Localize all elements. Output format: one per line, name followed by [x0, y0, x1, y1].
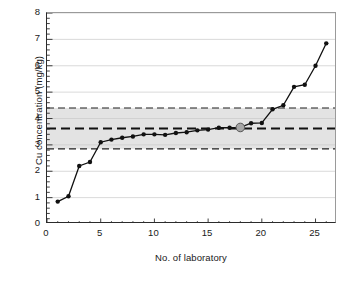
- data-point: [217, 126, 221, 130]
- data-point: [174, 131, 178, 135]
- data-point: [56, 199, 60, 203]
- data-point: [184, 130, 188, 134]
- data-point: [152, 132, 156, 136]
- data-point: [141, 132, 145, 136]
- highlighted-point: [236, 123, 245, 132]
- highlighted-data-point: [236, 123, 245, 132]
- data-point: [260, 121, 264, 125]
- data-point: [303, 83, 307, 87]
- data-point: [292, 85, 296, 89]
- data-point: [206, 127, 210, 131]
- data-point: [324, 41, 328, 45]
- data-point: [77, 164, 81, 168]
- gridlines: [47, 13, 336, 198]
- data-point: [120, 136, 124, 140]
- data-point: [249, 121, 253, 125]
- data-point: [270, 107, 274, 111]
- plot-area: [46, 12, 336, 223]
- data-point: [66, 194, 70, 198]
- data-point: [88, 160, 92, 164]
- plot-svg: [47, 13, 336, 223]
- x-tick-label: 10: [138, 228, 168, 238]
- y-axis-label: Cu concentration (mg/kg): [33, 11, 44, 211]
- data-point: [227, 126, 231, 130]
- y-tick-label: 0: [14, 218, 40, 228]
- x-tick-label: 0: [31, 228, 61, 238]
- data-point: [313, 64, 317, 68]
- chart-figure: Cu concentration (mg/kg) 012345678 05101…: [0, 0, 355, 281]
- data-point: [109, 137, 113, 141]
- data-point: [163, 133, 167, 137]
- x-tick-label: 15: [192, 228, 222, 238]
- x-tick-label: 5: [85, 228, 115, 238]
- data-point: [281, 103, 285, 107]
- x-tick-label: 25: [300, 228, 330, 238]
- data-point: [99, 140, 103, 144]
- data-point: [195, 128, 199, 132]
- x-tick-label: 20: [246, 228, 276, 238]
- x-axis-label: No. of laboratory: [46, 252, 336, 263]
- data-point: [131, 134, 135, 138]
